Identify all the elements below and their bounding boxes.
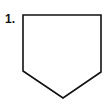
- pentagon-outline: [23, 15, 101, 98]
- pentagon-shape: [0, 0, 112, 104]
